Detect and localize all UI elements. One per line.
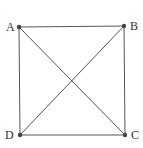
label-a: A [6,20,15,34]
label-d: D [5,128,14,142]
vertex-c [123,133,127,137]
vertex-d [18,133,22,137]
edge-ab [19,26,124,27]
square-diagram: A B C D [0,0,143,148]
vertex-b [122,24,126,28]
edge-bc [124,26,125,135]
label-c: C [131,128,139,142]
edge-da [19,27,20,135]
label-b: B [130,19,138,33]
vertex-a [17,25,21,29]
